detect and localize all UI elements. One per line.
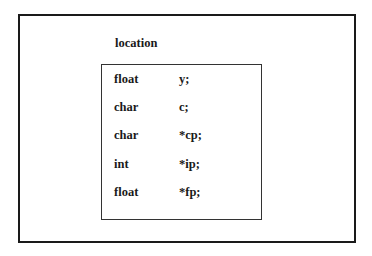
field-row: float y; <box>114 72 254 88</box>
field-type: int <box>114 157 129 172</box>
field-name: y; <box>179 72 189 87</box>
field-type: float <box>114 72 138 87</box>
field-row: int *ip; <box>114 157 254 173</box>
field-row: char c; <box>114 100 254 116</box>
field-row: char *cp; <box>114 128 254 144</box>
field-type: float <box>114 185 138 200</box>
field-row: float *fp; <box>114 185 254 201</box>
field-type: char <box>114 100 138 115</box>
field-name: *ip; <box>179 157 200 172</box>
location-label: location <box>115 36 157 51</box>
field-type: char <box>114 128 138 143</box>
field-name: c; <box>179 100 189 115</box>
field-name: *fp; <box>179 185 201 200</box>
field-name: *cp; <box>179 128 202 143</box>
